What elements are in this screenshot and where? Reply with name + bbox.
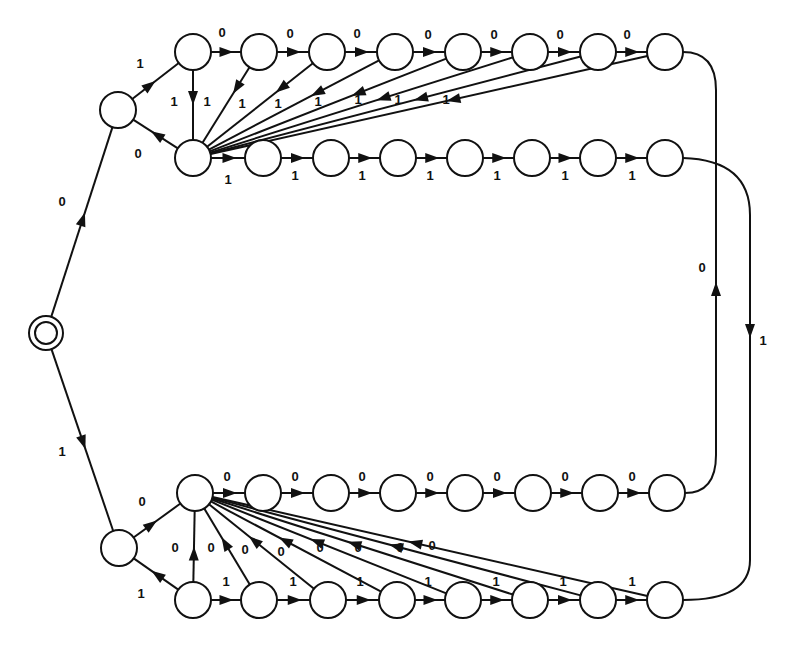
long-edges-layer [683,52,755,600]
arrowhead-icon [223,488,237,498]
edge-label: 0 [277,544,284,559]
state-node-T7 [647,34,683,70]
state-node-T2 [309,34,345,70]
state-node-U7 [647,140,683,176]
arrowhead-icon [291,488,305,498]
arrowhead-icon [627,488,641,498]
edge-label: 1 [493,168,500,183]
state-node-A [100,92,136,128]
edge-label: 0 [628,469,635,484]
arrowhead-icon [355,47,369,57]
edge-label: 0 [561,469,568,484]
arrowhead-icon [152,571,166,583]
state-node-T4 [445,34,481,70]
edge-label: 1 [289,574,296,589]
edge-label: 0 [241,542,248,557]
arrowhead-icon [493,488,507,498]
state-node-M7 [647,582,683,618]
edge-label: 1 [628,574,635,589]
edge-label: 1 [426,168,433,183]
state-node-U2 [313,140,349,176]
arrowhead-icon [141,81,155,94]
edge-label: 0 [354,540,361,555]
start-state-inner [35,322,57,344]
arrowhead-icon [625,153,639,163]
edge-label: 0 [396,540,403,555]
arrowhead-icon [151,131,165,143]
arrowhead-icon [287,47,301,57]
state-node-M0 [175,582,211,618]
arrowhead-icon [625,47,639,57]
edge-label: 0 [171,540,178,555]
edge-label: 1 [442,92,449,107]
arrowhead-icon [357,595,371,605]
state-node-M1 [241,582,277,618]
edge-label: 1 [628,168,635,183]
arrowhead-icon [220,47,234,57]
arrowhead-icon [625,595,639,605]
edge-label: 0 [353,26,360,41]
arrowhead-icon [143,521,157,533]
edge-label: 1 [137,586,144,601]
state-node-L0 [177,475,213,511]
state-node-T0 [175,34,211,70]
state-node-T6 [580,34,616,70]
arrowhead-icon [189,547,199,561]
edge-label: 0 [424,27,431,42]
edge-label: 0 [291,469,298,484]
edge-label: 0 [698,260,705,275]
state-node-L7 [649,475,685,511]
arrowhead-icon [424,595,438,605]
edge-label: 0 [207,540,214,555]
edge-label: 0 [358,469,365,484]
edge-label: 1 [354,92,361,107]
state-node-B [101,530,137,566]
edge-label: 0 [493,469,500,484]
edge-label: 1 [492,574,499,589]
edge-label: 0 [138,494,145,509]
edge-label: 1 [561,168,568,183]
edge-label: 1 [58,444,65,459]
edge-label: 1 [222,574,229,589]
edge-label: 1 [291,168,298,183]
edge-label: 0 [223,469,230,484]
arrowhead-icon [414,92,429,102]
edge-label: 1 [224,172,231,187]
arrowhead-icon [358,488,372,498]
state-node-T1 [241,34,277,70]
arrowhead-icon [233,79,245,94]
arrowhead-icon [288,595,302,605]
edge-label: 0 [426,469,433,484]
state-node-L3 [380,475,416,511]
edge-label: 1 [358,168,365,183]
edge-label: 1 [136,56,143,71]
arrowhead-icon [76,434,85,449]
state-node-L4 [447,475,483,511]
state-node-M3 [379,582,415,618]
arrowhead-icon [188,91,198,105]
edge-label: 0 [490,27,497,42]
state-node-M2 [310,582,346,618]
edge-label: 1 [274,96,281,111]
state-node-L1 [245,475,281,511]
arrowhead-icon [490,595,504,605]
edges-layer [51,47,649,605]
edge-label: 0 [428,538,435,553]
edge-label: 1 [394,92,401,107]
arrowhead-icon [76,212,86,227]
state-node-U3 [380,140,416,176]
state-node-U6 [580,140,616,176]
arrowhead-icon [558,47,572,57]
arrowhead-icon [425,488,439,498]
arrowhead-icon [425,153,439,163]
state-node-U0 [175,140,211,176]
edge-label: 0 [556,27,563,42]
state-node-U4 [447,140,483,176]
arrowhead-icon [223,153,237,163]
edge-label: 1 [424,574,431,589]
edge-label: 1 [238,96,245,111]
arrowhead-icon [492,153,506,163]
state-node-T3 [377,34,413,70]
arrowhead-icon [291,153,305,163]
edge-label: 0 [134,146,141,161]
